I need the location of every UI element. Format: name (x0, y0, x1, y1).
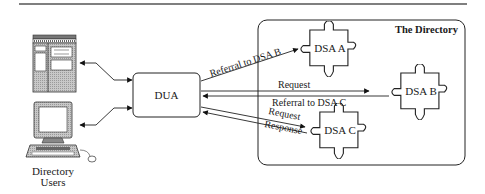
user-dua-connectors (80, 63, 132, 125)
directory-title: The Directory (395, 24, 459, 35)
dua-label: DUA (155, 89, 179, 101)
edge-label-request-b: Request (278, 79, 310, 90)
workstation-computer-icon (26, 102, 96, 162)
dsa-c-label: DSA C (324, 124, 356, 136)
users-label-line2: Users (40, 176, 65, 188)
edge-label-referral-to-dsa-b: Referral to DSA B (208, 45, 282, 78)
edge-label-referral-to-dsa-c: Referral to DSA C (272, 97, 346, 108)
server-terminal-icon (33, 35, 76, 92)
directory-diagram: The Directory Directory Users DUA (0, 0, 485, 194)
dsa-b-label: DSA B (405, 85, 437, 97)
dsa-a-label: DSA A (314, 42, 346, 54)
